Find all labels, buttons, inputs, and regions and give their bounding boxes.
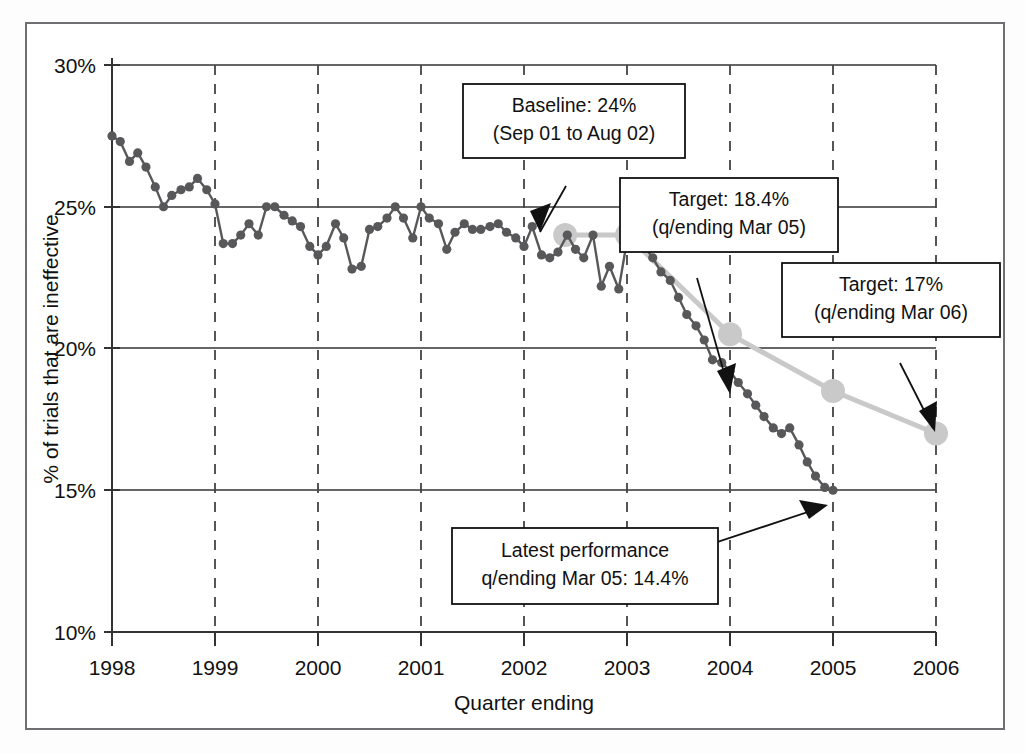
data-point [442,245,451,254]
data-point [519,242,528,251]
x-tick-label: 2005 [810,656,857,679]
latest-performance-annotation: Latest performance q/ending Mar 05: 14.4… [452,500,828,604]
data-point [588,231,597,240]
data-point [365,225,374,234]
data-point [648,253,657,262]
data-point [811,471,820,480]
target-mar06-annotation-line1: Target: 17% [839,273,943,295]
data-point [718,322,742,346]
data-point [313,250,322,259]
data-point [450,228,459,237]
data-point [357,262,366,271]
data-point [296,222,305,231]
x-tick-label: 2000 [295,656,342,679]
data-point [219,239,228,248]
data-point [185,182,194,191]
data-point [743,389,752,398]
data-point [141,162,150,171]
data-point [769,423,778,432]
data-point [434,219,443,228]
x-tick-label: 1998 [89,656,136,679]
x-tick-label: 2004 [707,656,754,679]
data-point [734,378,743,387]
data-point [821,379,845,403]
data-point [553,248,562,257]
data-point [656,267,665,276]
data-point [236,231,245,240]
data-point [425,213,434,222]
y-tick-label: 10% [54,621,96,644]
data-point [579,253,588,262]
data-point [537,250,546,259]
data-point [691,321,700,330]
x-tick-label: 1999 [192,656,239,679]
data-point [828,486,837,495]
data-point [288,216,297,225]
data-point [416,202,425,211]
data-point [391,202,400,211]
latest-performance-annotation-arrowhead [799,500,828,519]
data-point [408,233,417,242]
data-point [107,131,116,140]
data-point [305,242,314,251]
data-point [133,148,142,157]
data-point [700,335,709,344]
data-point [210,199,219,208]
data-point [399,213,408,222]
data-point [167,191,176,200]
baseline-annotation-line1: Baseline: 24% [512,94,637,116]
data-point [382,213,391,222]
x-tick-label: 2002 [501,656,548,679]
data-point [708,355,717,364]
data-point [674,293,683,302]
latest-performance-annotation-line2: q/ending Mar 05: 14.4% [481,567,688,589]
data-point [339,233,348,242]
data-point [494,219,503,228]
target-mar05-annotation-line2: (q/ending Mar 05) [652,216,806,238]
data-point [151,182,160,191]
data-point [202,185,211,194]
data-point [116,137,125,146]
data-point [666,276,675,285]
data-point [228,239,237,248]
data-point [545,253,554,262]
data-point [511,233,520,242]
data-point [485,222,494,231]
data-point [785,423,794,432]
y-axis-title: % of trials that are ineffective [39,214,62,483]
x-axis-title: Quarter ending [454,691,594,714]
data-point [159,202,168,211]
data-point [262,202,271,211]
x-axis-tick-labels: 1998 1999 2000 2001 2002 2003 2004 2005 … [89,656,960,679]
data-point [571,245,580,254]
data-point [759,412,768,421]
data-point [460,219,469,228]
data-point [528,222,537,231]
data-point [373,222,382,231]
data-point [563,231,572,240]
performance-line-chart: 30% 25% 20% 15% 10% 1998 1999 2000 2001 … [0,0,1025,753]
data-point [502,228,511,237]
data-point [751,401,760,410]
data-point [347,265,356,274]
data-point [794,440,803,449]
data-point [924,422,948,446]
y-tick-label: 30% [54,54,96,77]
data-point [468,225,477,234]
chart-page: 30% 25% 20% 15% 10% 1998 1999 2000 2001 … [0,0,1025,753]
data-point [193,174,202,183]
data-point [279,211,288,220]
data-point [597,282,606,291]
x-tick-label: 2001 [398,656,445,679]
data-point [125,157,134,166]
data-point [322,242,331,251]
data-point [331,219,340,228]
baseline-annotation-line2: (Sep 01 to Aug 02) [493,122,656,144]
data-point [476,225,485,234]
data-point [820,483,829,492]
target-mar05-annotation-arrowhead [717,363,736,394]
target-mar06-annotation-line2: (q/ending Mar 06) [814,301,968,323]
data-point [777,429,786,438]
data-point [803,457,812,466]
x-tick-label: 2006 [913,656,960,679]
